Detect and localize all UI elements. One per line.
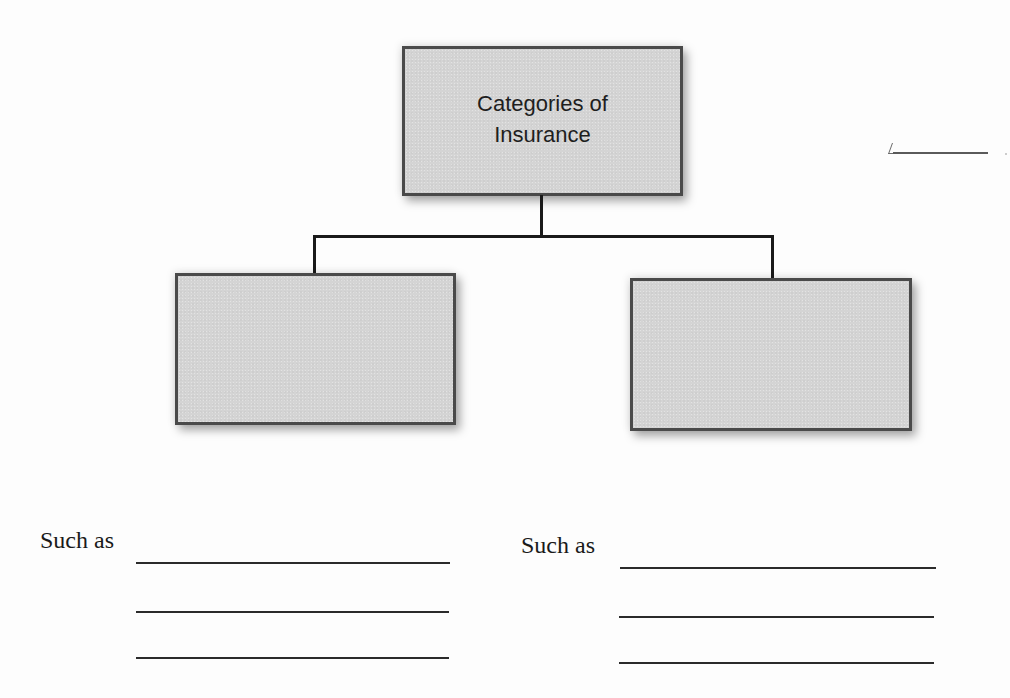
right-answer-blank-2[interactable] bbox=[619, 616, 934, 618]
left-answer-blank-3[interactable] bbox=[136, 657, 449, 659]
left-category-box[interactable] bbox=[175, 273, 456, 425]
right-category-box[interactable] bbox=[630, 278, 912, 431]
right-answer-blank-1[interactable] bbox=[620, 567, 936, 569]
right-such-as-label: Such as bbox=[521, 533, 595, 557]
worksheet-page: Categories of Insurance Such as Such as bbox=[0, 0, 1010, 698]
connector-drop-left bbox=[313, 235, 316, 274]
root-category-label: Categories of Insurance bbox=[477, 88, 608, 150]
edge-answer-blank-fragment bbox=[893, 152, 988, 154]
connector-horizontal-bar bbox=[313, 235, 773, 238]
right-answer-blank-3[interactable] bbox=[619, 662, 934, 664]
connector-drop-right bbox=[771, 235, 774, 279]
stray-dot bbox=[1005, 153, 1007, 155]
left-such-as-label: Such as bbox=[40, 528, 114, 552]
root-label-line-1: Categories of bbox=[477, 88, 608, 119]
root-category-box: Categories of Insurance bbox=[402, 46, 683, 196]
left-answer-blank-1[interactable] bbox=[136, 562, 450, 564]
left-answer-blank-2[interactable] bbox=[136, 611, 449, 613]
connector-stem bbox=[540, 195, 543, 237]
root-label-line-2: Insurance bbox=[477, 119, 608, 150]
